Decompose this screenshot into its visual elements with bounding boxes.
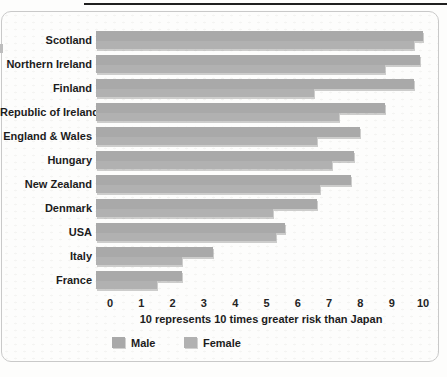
male-bar: [96, 151, 354, 161]
category-label: New Zealand: [0, 175, 92, 193]
legend-male-label: Male: [131, 336, 155, 350]
female-bar: [96, 65, 385, 73]
category-label: Finland: [0, 79, 92, 97]
male-bar: [96, 271, 182, 281]
x-tick-label: 8: [349, 297, 371, 309]
category-label: Northern Ireland: [0, 55, 92, 73]
bar-row: Northern Ireland: [0, 55, 447, 73]
bar-row: Scotland: [0, 31, 447, 49]
x-tick-label: 5: [256, 297, 278, 309]
male-bar: [96, 175, 351, 185]
x-tick-label: 10: [412, 297, 434, 309]
female-bar: [96, 209, 273, 217]
x-tick-label: 1: [130, 297, 152, 309]
female-bar: [96, 137, 317, 145]
legend-female-swatch: [184, 337, 197, 348]
bar-row: England & Wales: [0, 127, 447, 145]
category-label: Republic of Ireland: [0, 103, 92, 121]
bar-row: New Zealand: [0, 175, 447, 193]
category-label: Hungary: [0, 151, 92, 169]
bar-row: Italy: [0, 247, 447, 265]
category-label: England & Wales: [0, 127, 92, 145]
female-bar: [96, 233, 276, 241]
legend: Male Female: [0, 336, 447, 350]
male-bar: [96, 55, 420, 65]
male-bar: [96, 199, 317, 209]
category-label: France: [0, 271, 92, 289]
male-bar: [96, 79, 414, 89]
female-bar: [96, 161, 332, 169]
category-label: Scotland: [0, 31, 92, 49]
legend-female-label: Female: [203, 336, 241, 350]
x-tick-label: 9: [381, 297, 403, 309]
female-bar: [96, 41, 414, 49]
female-bar: [96, 185, 320, 193]
male-bar: [96, 31, 423, 41]
bar-chart: 10 represents 10 times greater risk than…: [0, 0, 447, 377]
x-tick-label: 2: [162, 297, 184, 309]
bar-row: Republic of Ireland: [0, 103, 447, 121]
legend-male-swatch: [112, 337, 125, 348]
x-tick-label: 4: [224, 297, 246, 309]
bar-row: Finland: [0, 79, 447, 97]
male-bar: [96, 223, 285, 233]
male-bar: [96, 127, 360, 137]
category-label: Italy: [0, 247, 92, 265]
female-bar: [96, 257, 182, 265]
category-label: USA: [0, 223, 92, 241]
x-tick-label: 6: [287, 297, 309, 309]
female-bar: [96, 89, 314, 97]
female-bar: [96, 113, 339, 121]
x-tick-label: 3: [193, 297, 215, 309]
male-bar: [96, 247, 213, 257]
figure-page: 10 represents 10 times greater risk than…: [0, 0, 447, 377]
x-axis-label: 10 represents 10 times greater risk than…: [96, 313, 426, 325]
female-bar: [96, 281, 157, 289]
x-tick-label: 0: [99, 297, 121, 309]
bar-row: France: [0, 271, 447, 289]
x-tick-label: 7: [318, 297, 340, 309]
bar-row: Hungary: [0, 151, 447, 169]
bar-row: USA: [0, 223, 447, 241]
category-label: Denmark: [0, 199, 92, 217]
male-bar: [96, 103, 385, 113]
bar-row: Denmark: [0, 199, 447, 217]
